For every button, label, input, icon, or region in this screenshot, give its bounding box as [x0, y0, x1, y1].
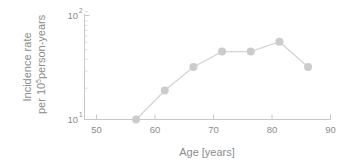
y-axis-title-line2: per 10 5 person-years: [35, 14, 47, 114]
data-point: [132, 116, 140, 124]
chart-axes: [84, 14, 331, 120]
x-axis-title: Age [years]: [179, 146, 235, 158]
y-axis-title-line2-pre: per 10: [35, 83, 47, 114]
data-point: [275, 38, 283, 46]
series-markers: [132, 38, 312, 124]
x-tick-label-60: 60: [150, 124, 161, 135]
data-point: [247, 48, 255, 56]
y-axis-title-line2-post: person-years: [35, 14, 47, 79]
x-axis-major-ticks: [97, 115, 331, 120]
data-point: [161, 87, 169, 95]
y-axis-tick-labels: 10 1 10 2: [67, 7, 83, 125]
y-tick-label-10-exponent: 1: [79, 111, 83, 118]
y-axis-major-ticks: [85, 16, 90, 120]
chart-canvas: 50 60 70 80 90 10 1 10 2 Age [years] Inc…: [0, 0, 347, 163]
data-point: [304, 63, 312, 71]
y-tick-label-100-base: 10: [67, 10, 78, 21]
y-tick-label-100-exponent: 2: [79, 7, 83, 14]
x-tick-label-90: 90: [325, 124, 336, 135]
x-tick-label-70: 70: [208, 124, 219, 135]
x-tick-label-50: 50: [91, 124, 102, 135]
data-series-group: [132, 38, 312, 124]
chart-figure: 50 60 70 80 90 10 1 10 2 Age [years] Inc…: [0, 0, 347, 163]
x-tick-label-80: 80: [267, 124, 278, 135]
y-axis-title-line1: Incidence rate: [21, 32, 33, 101]
y-axis-title: Incidence rate per 10 5 person-years: [21, 14, 47, 114]
y-tick-label-10-base: 10: [67, 114, 78, 125]
data-point: [218, 48, 226, 56]
data-point: [189, 63, 197, 71]
x-axis-tick-labels: 50 60 70 80 90: [91, 124, 336, 135]
